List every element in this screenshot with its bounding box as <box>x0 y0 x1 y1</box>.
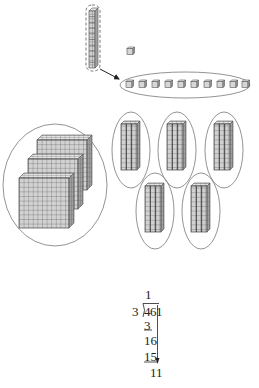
hundreds-group <box>3 124 107 246</box>
quotient: 1 <box>145 288 152 301</box>
ten-rod-regrouped <box>86 5 100 71</box>
tens-group-5 <box>182 173 220 249</box>
dividend: 461 <box>144 305 162 318</box>
divisor: 3 <box>132 305 139 318</box>
step1-subtract: 3 <box>144 319 151 332</box>
regroup-arrow <box>100 69 119 79</box>
tens-group-3 <box>205 112 243 188</box>
step2-subtract: 15 <box>144 350 157 363</box>
base-ten-diagram <box>0 0 259 388</box>
tens-group-4 <box>136 173 174 249</box>
tens-group-1 <box>112 112 150 188</box>
single-unit-cube <box>127 47 135 55</box>
step2-remainder: 11 <box>150 366 163 379</box>
step1-remainder: 16 <box>144 334 157 347</box>
ten-units-group <box>120 72 250 98</box>
